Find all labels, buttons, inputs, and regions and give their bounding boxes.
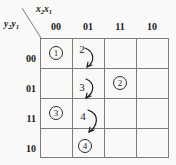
cell-r01-c11: 2 — [104, 68, 136, 98]
cell-r10-c10 — [136, 128, 168, 158]
row-variable-label: y2y1 — [4, 19, 19, 29]
cell-r00-c00: 1 — [40, 38, 72, 68]
cell-r00-c10 — [136, 38, 168, 68]
column-header-0: 00 — [40, 21, 72, 32]
column-header-1: 01 — [72, 21, 104, 32]
column-variable-label: x2x1 — [36, 4, 52, 14]
cell-r10-c01: 4 — [72, 128, 104, 158]
plain-number-3: 3 — [79, 82, 85, 93]
cell-r00-c11 — [104, 38, 136, 68]
column-header-3: 10 — [136, 21, 168, 32]
plain-number-2: 2 — [79, 44, 85, 55]
cell-r10-c11 — [104, 128, 136, 158]
cell-r10-c00 — [40, 128, 72, 158]
column-header-2: 11 — [104, 21, 136, 32]
cell-r01-c01: 3 — [72, 68, 104, 98]
plain-number-4: 4 — [80, 111, 86, 122]
row-header-0: 00 — [8, 53, 36, 64]
cell-r00-c01: 2 — [72, 38, 104, 68]
karnaugh-map: x2x1 y2y1 00 01 11 10 00 01 11 10 — [0, 0, 176, 165]
circled-number-3: 3 — [49, 106, 63, 120]
cell-r01-c00 — [40, 68, 72, 98]
circled-number-4: 4 — [78, 139, 92, 153]
row-header-1: 01 — [8, 83, 36, 94]
cell-r11-c00: 3 — [40, 98, 72, 128]
cell-r01-c10 — [136, 68, 168, 98]
circled-number-2: 2 — [113, 76, 127, 90]
row-header-3: 10 — [8, 143, 36, 154]
circled-number-1: 1 — [49, 46, 63, 60]
cell-r11-c10 — [136, 98, 168, 128]
cell-r11-c01: 4 — [72, 98, 104, 128]
cell-r11-c11 — [104, 98, 136, 128]
row-header-2: 11 — [8, 113, 36, 124]
